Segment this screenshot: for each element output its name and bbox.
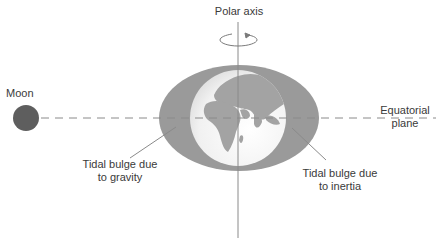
tidal-bulge-inertia-line-1: Tidal bulge due: [290, 167, 390, 180]
moon-label: Moon: [6, 87, 46, 100]
polar-axis-label: Polar axis: [204, 5, 274, 18]
tidal-bulge-gravity-line-1: Tidal bulge due: [70, 158, 170, 171]
moon-circle: [13, 105, 39, 131]
equatorial-plane-label: Equatorial plane: [372, 104, 438, 130]
tidal-bulge-inertia-label: Tidal bulge due to inertia: [290, 167, 390, 193]
tidal-bulge-diagram: Polar axis Moon Equatorial plane Tidal b…: [0, 0, 441, 250]
tidal-bulge-gravity-line-2: to gravity: [70, 171, 170, 184]
tidal-bulge-inertia-line-2: to inertia: [290, 180, 390, 193]
equatorial-plane-label-line-1: Equatorial: [372, 104, 438, 117]
equatorial-plane-label-line-2: plane: [372, 117, 438, 130]
tidal-bulge-gravity-label: Tidal bulge due to gravity: [70, 158, 170, 184]
